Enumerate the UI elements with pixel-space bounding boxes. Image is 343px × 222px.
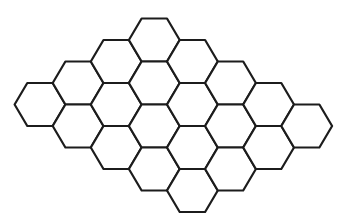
hex-cells: [15, 19, 333, 213]
hex-cell: [281, 105, 332, 148]
hex-grid-diagram: [0, 0, 343, 222]
